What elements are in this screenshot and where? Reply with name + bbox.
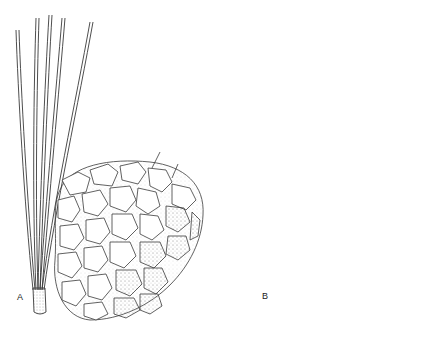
panel-label-b: B — [262, 291, 268, 301]
cone-a — [55, 152, 204, 320]
needle — [16, 30, 33, 290]
panel-label-a: A — [17, 292, 23, 302]
illustration — [0, 0, 424, 339]
needle — [38, 15, 49, 290]
needle — [34, 18, 36, 290]
sheath-a — [33, 288, 46, 314]
